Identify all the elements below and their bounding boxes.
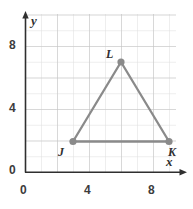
y-tick-label-4: 4 (9, 102, 16, 114)
x-tick-label-0: 0 (20, 184, 27, 196)
vertex-point-l (117, 58, 124, 65)
x-tick-label-4: 4 (84, 184, 91, 196)
vertex-label-l: L (106, 48, 113, 60)
grid-lines (25, 14, 176, 172)
x-tick-label-8: 8 (148, 184, 155, 196)
y-tick-label-8: 8 (9, 39, 16, 51)
vertex-label-j: J (58, 146, 64, 158)
graph-canvas (0, 0, 193, 209)
vertex-point-j (69, 138, 76, 145)
vertex-label-k: K (168, 146, 176, 158)
y-axis-label: y (31, 14, 37, 27)
y-tick-label-0: 0 (9, 164, 16, 176)
coordinate-plane-figure: 8 4 0 0 4 8 y x J K L (0, 0, 193, 209)
